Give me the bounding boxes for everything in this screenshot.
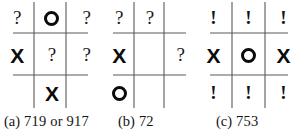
- question-mark-icon: ?: [176, 45, 184, 64]
- caption-text: 719 or 917: [24, 113, 89, 129]
- cell-c-r1c2[interactable]: X: [266, 37, 301, 74]
- x-mark-icon: X: [45, 82, 59, 103]
- o-mark-icon: [44, 11, 59, 26]
- caption-text: 72: [139, 113, 154, 129]
- exclamation-mark-icon: !: [210, 8, 216, 27]
- caption-b: (b)72: [104, 113, 210, 130]
- cell-a-r1c2[interactable]: ?: [69, 37, 104, 74]
- panel-b: ? ? X ? (b)72: [104, 0, 196, 140]
- cell-grid-a: ? ? X ? ? X: [0, 0, 104, 112]
- caption-label: (b): [118, 113, 135, 129]
- cell-a-r2c2[interactable]: [69, 75, 104, 112]
- exclamation-mark-icon: !: [245, 83, 251, 102]
- cell-b-r0c0[interactable]: ?: [104, 0, 135, 37]
- cell-b-r2c0[interactable]: [104, 75, 135, 112]
- board-b: ? ? X ?: [104, 0, 196, 112]
- cell-a-r2c0[interactable]: [0, 75, 35, 112]
- x-mark-icon: X: [206, 45, 220, 66]
- cell-c-r0c1[interactable]: !: [231, 0, 266, 37]
- cell-c-r0c0[interactable]: !: [196, 0, 231, 37]
- o-mark-icon: [112, 86, 127, 101]
- cell-c-r0c2[interactable]: !: [266, 0, 301, 37]
- question-mark-icon: ?: [82, 45, 90, 64]
- cell-a-r0c1[interactable]: [35, 0, 70, 37]
- board-a: ? ? X ? ? X: [0, 0, 104, 112]
- question-mark-icon: ?: [48, 45, 56, 64]
- exclamation-mark-icon: !: [280, 8, 286, 27]
- cell-c-r2c0[interactable]: !: [196, 75, 231, 112]
- cell-c-r2c2[interactable]: !: [266, 75, 301, 112]
- exclamation-mark-icon: !: [245, 8, 251, 27]
- panel-a: ? ? X ? ? X (a)719 or 917: [0, 0, 104, 140]
- cell-b-r2c2[interactable]: [165, 75, 196, 112]
- question-mark-icon: ?: [146, 8, 154, 27]
- question-mark-icon: ?: [13, 8, 21, 27]
- x-mark-icon: X: [112, 45, 126, 66]
- cell-b-r1c0[interactable]: X: [104, 37, 135, 74]
- caption-text: 753: [236, 113, 258, 129]
- o-mark-icon: [241, 48, 256, 63]
- cell-b-r0c2[interactable]: [165, 0, 196, 37]
- question-mark-icon: ?: [82, 8, 90, 27]
- cell-a-r1c0[interactable]: X: [0, 37, 35, 74]
- cell-a-r0c0[interactable]: ?: [0, 0, 35, 37]
- x-mark-icon: X: [10, 45, 24, 66]
- board-c: ! ! ! X X ! ! !: [196, 0, 301, 112]
- question-mark-icon: ?: [115, 8, 123, 27]
- cell-c-r2c1[interactable]: !: [231, 75, 266, 112]
- panel-c: ! ! ! X X ! ! ! (c)753: [196, 0, 301, 140]
- cell-b-r1c2[interactable]: ?: [165, 37, 196, 74]
- tic-tac-toe-figure: ? ? X ? ? X (a)719 or 917: [0, 0, 301, 140]
- cell-grid-c: ! ! ! X X ! ! !: [196, 0, 301, 112]
- cell-a-r2c1[interactable]: X: [35, 75, 70, 112]
- caption-label: (a): [4, 113, 20, 129]
- cell-b-r0c1[interactable]: ?: [135, 0, 166, 37]
- cell-b-r1c1[interactable]: [135, 37, 166, 74]
- cell-a-r1c1[interactable]: ?: [35, 37, 70, 74]
- cell-a-r0c2[interactable]: ?: [69, 0, 104, 37]
- caption-a: (a)719 or 917: [0, 113, 108, 130]
- cell-c-r1c0[interactable]: X: [196, 37, 231, 74]
- cell-grid-b: ? ? X ?: [104, 0, 196, 112]
- caption-c: (c)753: [196, 113, 301, 130]
- caption-label: (c): [216, 113, 232, 129]
- exclamation-mark-icon: !: [280, 83, 286, 102]
- cell-b-r2c1[interactable]: [135, 75, 166, 112]
- exclamation-mark-icon: !: [210, 83, 216, 102]
- x-mark-icon: X: [276, 45, 290, 66]
- cell-c-r1c1[interactable]: [231, 37, 266, 74]
